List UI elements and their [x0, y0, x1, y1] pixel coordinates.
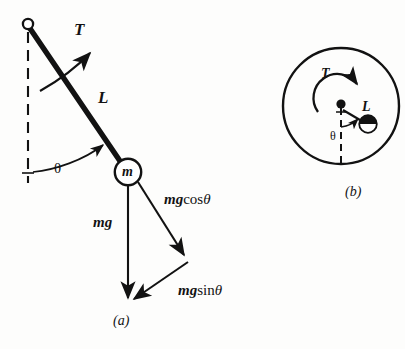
theta-angle-arc: [33, 145, 103, 172]
theta-angle-arc-b: [341, 119, 358, 127]
axis-hub-dot: [336, 99, 345, 108]
pendulum-figure: T L m θ mg mgcosθ mgsinθ (a) T L θ (b): [0, 0, 405, 349]
label-theta-b: θ: [330, 130, 336, 142]
pendulum-bob-b: [359, 115, 377, 133]
label-tension-a: T: [74, 21, 84, 38]
caption-panel-b: (b): [345, 185, 361, 199]
label-tension-b: T: [321, 67, 330, 81]
label-mass-a: m: [122, 165, 133, 179]
label-weight-normal-component: mgcosθ: [164, 192, 211, 207]
label-length-a: L: [98, 89, 108, 106]
label-weight-mg: mg: [93, 215, 112, 230]
pivot-point-circle: [23, 19, 33, 29]
label-mgcos-fn: cos: [183, 191, 203, 207]
label-mgsin-theta: θ: [215, 282, 222, 298]
label-mgcos-mg: mg: [164, 191, 183, 207]
label-theta-a: θ: [54, 161, 61, 176]
label-length-b: L: [362, 100, 371, 114]
label-mgcos-theta: θ: [203, 191, 210, 207]
label-weight-tangential-component: mgsinθ: [178, 283, 222, 298]
label-mgsin-fn: sin: [197, 282, 215, 298]
panel-b-artwork: [283, 48, 399, 164]
caption-panel-a: (a): [113, 314, 129, 328]
label-mgsin-mg: mg: [178, 282, 197, 298]
panel-a-artwork: [22, 19, 188, 299]
